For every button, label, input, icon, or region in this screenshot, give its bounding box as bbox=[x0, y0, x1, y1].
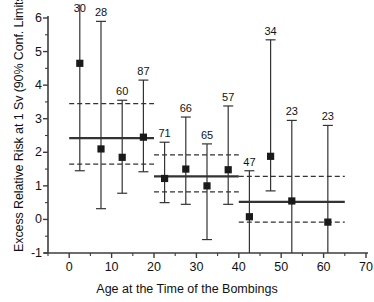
data-point-marker[interactable] bbox=[97, 145, 104, 152]
data-point-marker[interactable] bbox=[267, 153, 274, 160]
data-point-marker[interactable] bbox=[119, 154, 126, 161]
data-point-marker[interactable] bbox=[203, 182, 210, 189]
data-point-marker[interactable] bbox=[246, 213, 253, 220]
data-point-marker[interactable] bbox=[288, 197, 295, 204]
data-point-marker[interactable] bbox=[324, 219, 331, 226]
data-point-marker[interactable] bbox=[76, 60, 83, 67]
data-point-marker[interactable] bbox=[225, 166, 232, 173]
data-point-marker[interactable] bbox=[140, 134, 147, 141]
data-point-marker[interactable] bbox=[182, 165, 189, 172]
chart-figure: Excess Relative Risk at 1 Sv (90% Conf. … bbox=[0, 0, 374, 302]
data-point-marker[interactable] bbox=[161, 175, 168, 182]
plot-canvas bbox=[0, 0, 374, 302]
